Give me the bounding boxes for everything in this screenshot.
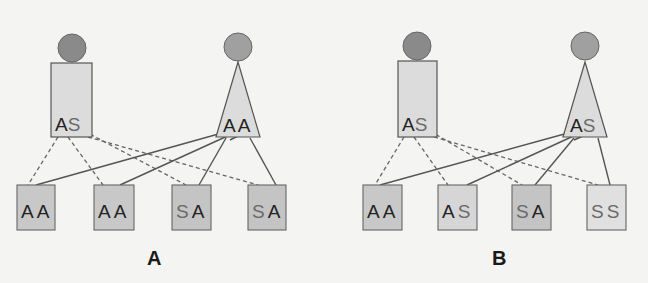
offspring-3: SA bbox=[512, 185, 551, 230]
mother-head bbox=[224, 33, 252, 61]
panel-b-label: B bbox=[492, 247, 506, 269]
offspring-row: AA AA SA SA bbox=[17, 185, 286, 230]
panel-b: AS AS AA AS SA SS bbox=[363, 32, 626, 269]
mother-head bbox=[571, 32, 599, 60]
svg-text:AS: AS bbox=[442, 201, 473, 222]
svg-text:AA: AA bbox=[98, 201, 129, 222]
svg-text:AS: AS bbox=[570, 115, 595, 136]
father-head bbox=[403, 32, 431, 60]
father-allele-2: S bbox=[415, 114, 428, 135]
father-allele-1: A bbox=[402, 114, 415, 135]
mother-figure: AA bbox=[216, 33, 260, 137]
svg-text:SS: SS bbox=[591, 201, 622, 222]
father-figure: AS bbox=[51, 34, 92, 137]
svg-text:AA: AA bbox=[21, 201, 52, 222]
father-allele-1: A bbox=[55, 114, 68, 135]
mother-allele-1: A bbox=[570, 115, 583, 136]
mother-allele-2: S bbox=[583, 115, 596, 136]
father-head bbox=[58, 34, 86, 62]
svg-text:SA: SA bbox=[516, 201, 547, 222]
svg-text:AA: AA bbox=[223, 115, 252, 136]
offspring-2: AA bbox=[94, 185, 134, 230]
mother-figure: AS bbox=[563, 32, 607, 137]
mother-inheritance-lines bbox=[36, 132, 276, 185]
offspring-1: AA bbox=[363, 185, 402, 230]
father-figure: AS bbox=[398, 32, 437, 137]
mother-inheritance-lines bbox=[380, 132, 610, 185]
offspring-4: SS bbox=[587, 185, 626, 230]
offspring-1: AA bbox=[17, 185, 55, 230]
offspring-2: AS bbox=[438, 185, 477, 230]
panel-a: AS AA AA AA SA bbox=[17, 33, 286, 269]
svg-text:AS: AS bbox=[402, 114, 427, 135]
svg-text:SA: SA bbox=[252, 201, 283, 222]
panel-a-label: A bbox=[147, 247, 161, 269]
mother-allele-2: A bbox=[238, 115, 253, 136]
father-allele-2: S bbox=[68, 114, 81, 135]
offspring-3: SA bbox=[172, 185, 211, 230]
punnett-inheritance-diagram: AS AA AA AA SA bbox=[0, 0, 648, 283]
svg-text:AS: AS bbox=[55, 114, 80, 135]
svg-text:AA: AA bbox=[367, 201, 398, 222]
offspring-4: SA bbox=[248, 185, 286, 230]
mother-allele-1: A bbox=[223, 115, 238, 136]
offspring-row: AA AS SA SS bbox=[363, 185, 626, 230]
svg-text:SA: SA bbox=[176, 201, 207, 222]
